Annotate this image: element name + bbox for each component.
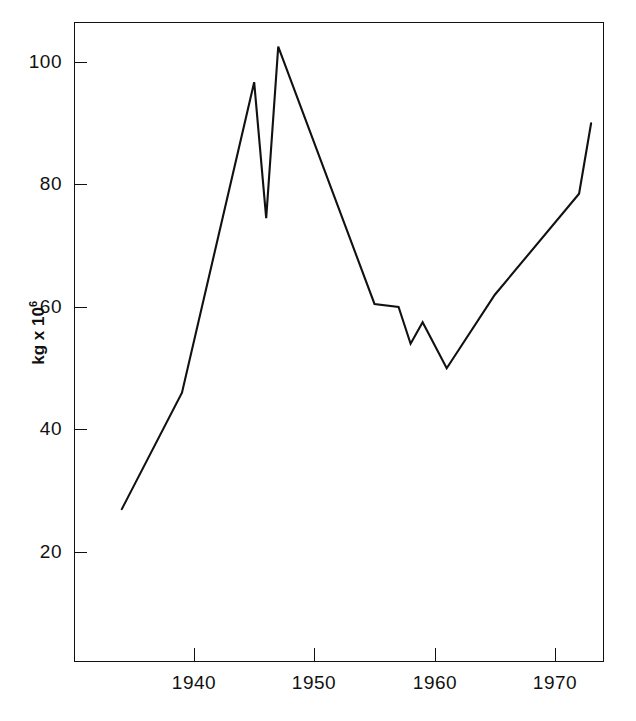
x-tick-label-1940: 1940 [159,672,229,694]
y-tick-80 [74,184,87,185]
plot-frame [74,22,604,662]
y-tick-label-20: 20 [2,541,62,563]
y-tick-label-40: 40 [2,418,62,440]
y-tick-40 [74,429,87,430]
x-tick-1940 [194,648,195,662]
y-axis-title: kg x 106 [27,273,49,393]
x-tick-1950 [314,648,315,662]
y-tick-label-100: 100 [2,51,62,73]
x-tick-label-1950: 1950 [279,672,349,694]
y-tick-100 [74,62,87,63]
y-axis-title-text: kg x 10 [29,307,48,365]
x-tick-1960 [435,648,436,662]
x-tick-label-1960: 1960 [400,672,470,694]
y-axis-title-exponent: 6 [27,301,39,307]
x-tick-label-1970: 1970 [520,672,590,694]
y-tick-20 [74,552,87,553]
y-tick-60 [74,307,87,308]
chart-page: 100 80 60 40 20 1940 1950 1960 1970 kg x… [0,0,636,721]
x-tick-1970 [555,648,556,662]
y-tick-label-80: 80 [2,173,62,195]
